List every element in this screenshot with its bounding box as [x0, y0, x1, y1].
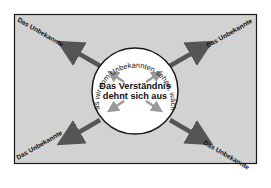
center-title-line2: dehnt sich aus	[103, 91, 167, 101]
diagram-canvas: Was wir vom Unbekannten sehen, wächst Da…	[0, 0, 271, 188]
center-title-line1: Das Verständnis	[99, 81, 171, 91]
